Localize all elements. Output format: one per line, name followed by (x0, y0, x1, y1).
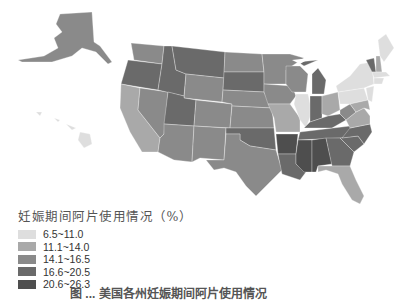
legend-swatch (18, 230, 36, 239)
legend-swatch (18, 267, 36, 276)
state-IN (310, 96, 322, 122)
map-legend: 妊娠期间阿片使用情况（%） 6.5~11.0 11.1~14.0 14.1~16… (18, 206, 192, 291)
legend-label: 6.5~11.0 (43, 228, 83, 240)
legend-item: 6.5~11.0 (18, 228, 192, 241)
state-OH (322, 92, 340, 116)
state-AK (18, 12, 112, 64)
legend-item: 16.6~20.5 (18, 266, 192, 279)
legend-swatch (18, 255, 36, 264)
state-CO (194, 100, 232, 128)
state-SD (223, 72, 264, 92)
legend-swatch (18, 280, 36, 289)
us-choropleth-map (0, 0, 411, 210)
legend-label: 11.1~14.0 (43, 241, 89, 253)
state-ND (224, 52, 264, 72)
state-MA (372, 72, 390, 78)
state-NH (376, 56, 382, 72)
state-AR (276, 134, 298, 154)
state-KS (230, 106, 274, 128)
figure-caption: 图 ... 美国各州妊娠期间阿片使用情况 (70, 284, 267, 301)
legend-title: 妊娠期间阿片使用情况（%） (18, 206, 192, 225)
state-FL (318, 166, 364, 204)
state-NM (192, 126, 226, 162)
state-WI (286, 66, 308, 92)
legend-item: 14.1~16.5 (18, 253, 192, 266)
legend-label: 14.1~16.5 (43, 253, 90, 265)
state-WY (184, 74, 224, 102)
legend-label: 16.6~20.5 (43, 266, 90, 278)
state-HI (36, 112, 92, 148)
legend-item: 11.1~14.0 (18, 241, 192, 254)
legend-swatch (18, 242, 36, 251)
state-CT (374, 78, 384, 84)
